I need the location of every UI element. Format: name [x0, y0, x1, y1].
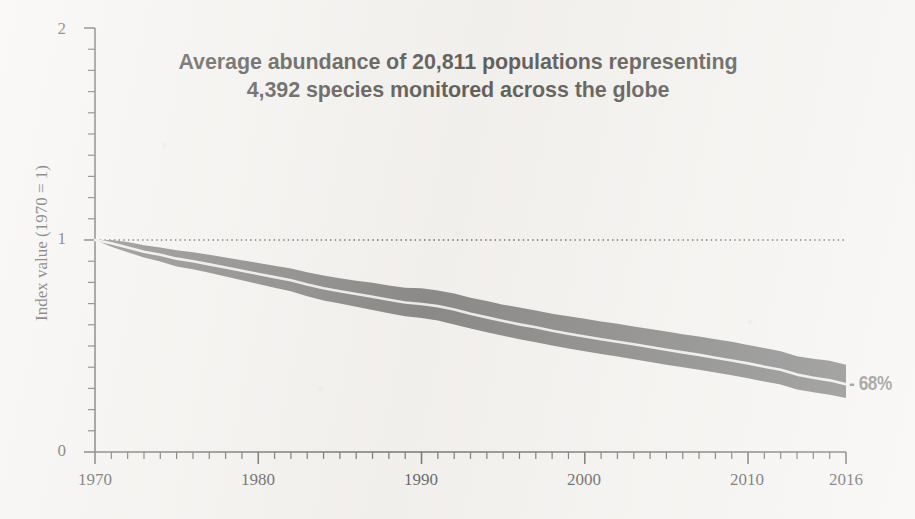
chart-title: Average abundance of 20,811 populations …: [108, 48, 808, 104]
x-tick-label-1980: 1980: [228, 470, 288, 490]
x-tick-label-2010: 2010: [717, 470, 777, 490]
y-tick-label-2: 2: [38, 19, 66, 39]
x-axis-ticks: [95, 452, 846, 464]
chart-title-line-1: Average abundance of 20,811 populations …: [108, 48, 808, 76]
y-tick-label-1: 1: [38, 229, 66, 249]
chart-figure: Average abundance of 20,811 populations …: [0, 0, 915, 519]
chart-title-line-2: 4,392 species monitored across the globe: [108, 76, 808, 104]
x-tick-label-1990: 1990: [391, 470, 451, 490]
x-tick-label-2000: 2000: [554, 470, 614, 490]
percent-change-annotation: - 68%: [849, 372, 892, 395]
y-tick-label-0: 0: [38, 441, 66, 461]
x-tick-label-1970: 1970: [65, 470, 125, 490]
y-axis-ticks: [84, 28, 95, 452]
x-tick-label-2016: 2016: [816, 470, 876, 490]
